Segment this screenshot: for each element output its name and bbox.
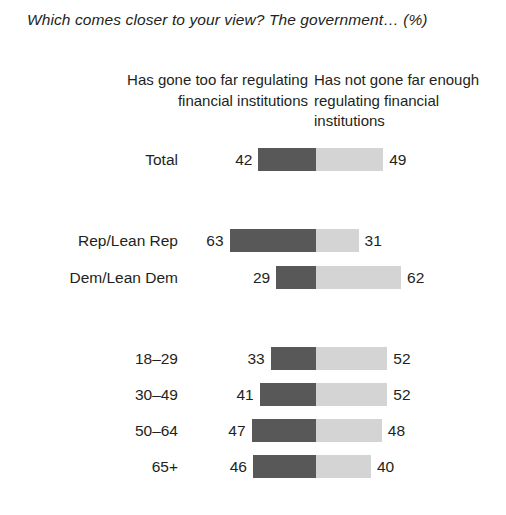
bar-row: Dem/Lean Dem2962 <box>0 266 506 289</box>
bar-value-too-far: 63 <box>184 230 224 251</box>
bar-track <box>0 455 506 478</box>
bar-segment-too-far <box>276 266 316 289</box>
bar-value-not-far-enough: 62 <box>407 267 447 288</box>
bar-value-not-far-enough: 48 <box>388 420 428 441</box>
bar-row: 18–293352 <box>0 347 506 370</box>
bar-segment-too-far <box>252 419 316 442</box>
bar-segment-not-far-enough <box>316 229 359 252</box>
bar-value-not-far-enough: 52 <box>393 348 433 369</box>
bar-row: Total4249 <box>0 148 506 171</box>
bar-segment-too-far <box>258 148 316 171</box>
bar-segment-too-far <box>253 455 316 478</box>
bar-row: Rep/Lean Rep6331 <box>0 229 506 252</box>
bar-value-too-far: 42 <box>212 149 252 170</box>
bar-segment-not-far-enough <box>316 347 387 370</box>
bar-row: 30–494152 <box>0 383 506 406</box>
bar-value-too-far: 47 <box>206 420 246 441</box>
bar-segment-not-far-enough <box>316 148 383 171</box>
bar-value-too-far: 46 <box>207 456 247 477</box>
bar-segment-not-far-enough <box>316 383 387 406</box>
bar-value-too-far: 41 <box>214 384 254 405</box>
bar-track <box>0 229 506 252</box>
bar-value-not-far-enough: 52 <box>393 384 433 405</box>
bar-value-not-far-enough: 40 <box>377 456 417 477</box>
bar-track <box>0 148 506 171</box>
bar-segment-too-far <box>260 383 316 406</box>
bar-segment-not-far-enough <box>316 419 382 442</box>
bar-segment-not-far-enough <box>316 455 371 478</box>
bar-value-too-far: 29 <box>230 267 270 288</box>
chart-plot-area: Total4249Rep/Lean Rep6331Dem/Lean Dem296… <box>0 0 506 515</box>
bar-value-too-far: 33 <box>225 348 265 369</box>
bar-segment-too-far <box>230 229 316 252</box>
bar-value-not-far-enough: 31 <box>365 230 405 251</box>
bar-track <box>0 419 506 442</box>
bar-segment-not-far-enough <box>316 266 401 289</box>
bar-value-not-far-enough: 49 <box>389 149 429 170</box>
bar-segment-too-far <box>271 347 316 370</box>
bar-row: 65+4640 <box>0 455 506 478</box>
bar-row: 50–644748 <box>0 419 506 442</box>
